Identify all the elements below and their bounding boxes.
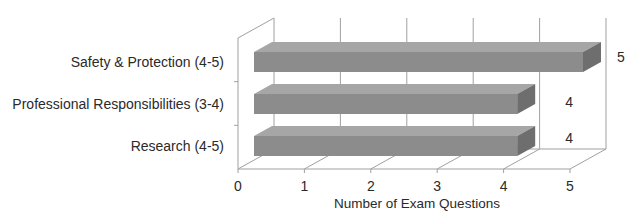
x-tick-label: 1 [301,178,309,194]
bars [254,42,601,156]
category-label: Research (4-5) [131,138,224,154]
value-label: 4 [565,94,573,110]
x-tick-label: 3 [433,178,441,194]
category-label: Professional Responsibilities (3-4) [12,96,224,112]
bar [254,126,535,156]
bar-front [254,94,517,114]
bar [254,42,601,72]
x-axis-title: Number of Exam Questions [334,196,500,211]
bar-front [254,52,583,72]
bar-front [254,136,517,156]
bar-top [254,42,601,52]
bar-chart: 012345Safety & Protection (4-5)5Professi… [0,0,636,223]
x-tick-label: 5 [566,178,574,194]
value-label: 4 [565,130,573,146]
x-tick-label: 2 [367,178,375,194]
x-tick-label: 0 [234,178,242,194]
bar-top [254,84,535,94]
value-label: 5 [617,49,625,65]
x-tick-label: 4 [500,178,508,194]
bar [254,84,535,114]
bar-top [254,126,535,136]
category-label: Safety & Protection (4-5) [71,54,224,70]
floor-line [570,149,606,169]
